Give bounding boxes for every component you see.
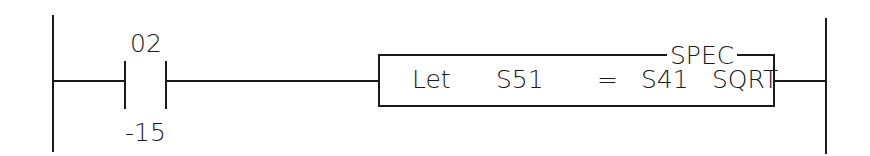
contact-left-bar: [124, 61, 126, 109]
rung-wire-middle: [166, 80, 380, 82]
rung-wire-right: [775, 80, 827, 82]
instruction-destination: S51: [496, 67, 544, 92]
contact-address-bottom: -15: [125, 120, 166, 145]
left-power-rail: [52, 15, 54, 152]
instruction-source: S41: [641, 67, 689, 92]
instruction-keyword: Let: [412, 67, 451, 92]
instruction-operator: =: [597, 67, 618, 92]
contact-address-top: 02: [130, 31, 162, 56]
instruction-function: SQRT: [712, 67, 778, 92]
contact-right-bar: [165, 61, 167, 109]
right-power-rail: [825, 18, 827, 154]
rung-wire-left: [53, 80, 126, 82]
